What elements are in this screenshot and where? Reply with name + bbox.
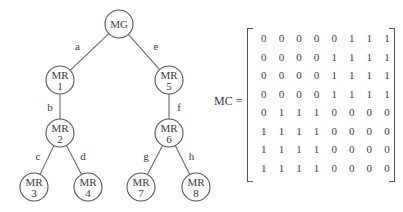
matrix-cell: 1 bbox=[378, 32, 396, 44]
matrix-cell: 0 bbox=[273, 88, 291, 100]
edge-label-a: a bbox=[75, 40, 80, 52]
matrix-cell: 0 bbox=[273, 51, 291, 63]
edge-label-e: e bbox=[154, 40, 159, 52]
matrix-cell: 1 bbox=[343, 32, 361, 44]
matrix-cell: 1 bbox=[361, 88, 379, 100]
node-mr8: MR8 bbox=[182, 173, 210, 201]
matrix-cell: 1 bbox=[361, 32, 379, 44]
matrix-cell: 1 bbox=[308, 125, 326, 137]
matrix-cell: 1 bbox=[378, 51, 396, 63]
matrix-row: 00000111 bbox=[255, 32, 396, 44]
edge-d: d bbox=[66, 145, 86, 174]
matrix-cell: 1 bbox=[255, 125, 273, 137]
node-mr7: MR7 bbox=[127, 173, 155, 201]
edge-a: a bbox=[70, 34, 109, 71]
node-mr2: MR2 bbox=[46, 119, 74, 147]
matrix-cell: 0 bbox=[361, 162, 379, 174]
edge-label-g: g bbox=[143, 150, 149, 162]
matrix-cell: 1 bbox=[255, 143, 273, 155]
node-mr1: MR1 bbox=[46, 66, 74, 94]
node-mr6: MR6 bbox=[155, 119, 183, 147]
edge-label-c: c bbox=[36, 150, 41, 162]
matrix-row: 11110000 bbox=[255, 125, 396, 137]
node-mr3: MR3 bbox=[20, 173, 48, 201]
edge-g: g bbox=[143, 145, 162, 174]
matrix-cell: 1 bbox=[290, 162, 308, 174]
edge-b: b bbox=[47, 94, 60, 119]
svg-text:7: 7 bbox=[138, 187, 144, 199]
svg-text:8: 8 bbox=[193, 187, 199, 199]
edge-label-b: b bbox=[47, 101, 53, 113]
matrix-cell: 0 bbox=[308, 32, 326, 44]
matrix-cell: 1 bbox=[308, 106, 326, 118]
matrix-cell: 0 bbox=[325, 106, 343, 118]
matrix-cell: 0 bbox=[255, 106, 273, 118]
matrix-cell: 1 bbox=[325, 51, 343, 63]
matrix-cell: 0 bbox=[255, 32, 273, 44]
matrix-cell: 0 bbox=[290, 88, 308, 100]
matrix-cell: 1 bbox=[378, 88, 396, 100]
matrix-cell: 1 bbox=[290, 125, 308, 137]
matrix-cell: 0 bbox=[378, 125, 396, 137]
matrix-cell: 1 bbox=[308, 162, 326, 174]
svg-text:4: 4 bbox=[85, 187, 91, 199]
matrix-cell: 0 bbox=[273, 69, 291, 81]
matrix-row: 00001111 bbox=[255, 88, 396, 100]
node-mr5: MR5 bbox=[155, 66, 183, 94]
matrix-cell: 0 bbox=[325, 143, 343, 155]
matrix-cell: 1 bbox=[273, 162, 291, 174]
svg-text:2: 2 bbox=[57, 133, 63, 145]
edge-label-d: d bbox=[80, 150, 86, 162]
matrix-label: MC = bbox=[214, 94, 242, 109]
matrix-cell: 1 bbox=[343, 88, 361, 100]
matrix-cell: 0 bbox=[273, 32, 291, 44]
matrix-row: 00001111 bbox=[255, 69, 396, 81]
svg-text:6: 6 bbox=[166, 133, 172, 145]
matrix-cell: 1 bbox=[290, 143, 308, 155]
matrix-cell: 1 bbox=[361, 69, 379, 81]
matrix-cell: 0 bbox=[378, 143, 396, 155]
matrix-cell: 0 bbox=[290, 69, 308, 81]
matrix-cell: 1 bbox=[378, 69, 396, 81]
matrix-cell: 0 bbox=[308, 51, 326, 63]
matrix-cell: 0 bbox=[343, 162, 361, 174]
node-mg: MG bbox=[105, 10, 133, 38]
svg-text:3: 3 bbox=[31, 187, 37, 199]
matrix-cell: 0 bbox=[308, 88, 326, 100]
matrix-cell: 1 bbox=[361, 51, 379, 63]
matrix-cell: 0 bbox=[343, 125, 361, 137]
matrix-cell: 1 bbox=[325, 69, 343, 81]
edge-h: h bbox=[175, 146, 194, 175]
matrix-cell: 1 bbox=[308, 143, 326, 155]
matrix-cell: 1 bbox=[273, 143, 291, 155]
edge-label-h: h bbox=[189, 150, 195, 162]
edge-label-f: f bbox=[177, 101, 181, 113]
matrix-cell: 0 bbox=[343, 143, 361, 155]
matrix-cell: 1 bbox=[325, 88, 343, 100]
tree-diagram: aebfcdghMGMR1MR5MR2MR6MR3MR4MR7MR8 bbox=[0, 0, 230, 212]
matrix-mc: 0000011100001111000011110000111101110000… bbox=[247, 28, 395, 182]
matrix-cell: 0 bbox=[290, 32, 308, 44]
matrix-cell: 0 bbox=[361, 106, 379, 118]
edge-e: e bbox=[128, 34, 159, 69]
svg-text:1: 1 bbox=[57, 80, 63, 92]
matrix-cell: 0 bbox=[361, 143, 379, 155]
matrix-cell: 0 bbox=[290, 51, 308, 63]
edge-f: f bbox=[169, 94, 181, 119]
matrix-cell: 0 bbox=[378, 106, 396, 118]
matrix-cell: 0 bbox=[255, 69, 273, 81]
matrix-cell: 1 bbox=[255, 162, 273, 174]
matrix-cell: 0 bbox=[343, 106, 361, 118]
matrix-cell: 0 bbox=[325, 162, 343, 174]
matrix-cell: 1 bbox=[290, 106, 308, 118]
matrix-cell: 0 bbox=[308, 69, 326, 81]
matrix-left-bracket bbox=[247, 28, 253, 182]
matrix-cell: 0 bbox=[325, 125, 343, 137]
matrix-row: 01110000 bbox=[255, 106, 396, 118]
matrix-row: 11110000 bbox=[255, 143, 396, 155]
matrix-cell: 0 bbox=[255, 51, 273, 63]
matrix-cell: 1 bbox=[273, 106, 291, 118]
edge-c: c bbox=[36, 146, 54, 175]
matrix-cell: 0 bbox=[378, 162, 396, 174]
matrix-cell: 1 bbox=[343, 51, 361, 63]
